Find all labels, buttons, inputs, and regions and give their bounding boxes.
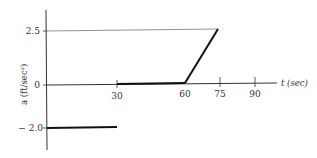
y-tick-label-0: 0 [34,80,40,90]
x-tick-label-60: 60 [179,89,191,99]
x-tick-label-30: 30 [111,91,123,101]
series-segment-neg-2 [47,127,117,128]
x-tick-label-75: 75 [214,89,226,99]
series-segment-ramp [185,29,218,83]
series-segment-zero [117,83,185,84]
x-axis-label: t (sec) [281,78,308,88]
y-tick-label-neg-2: − 2.0 [18,123,43,133]
x-tick-label-90: 90 [249,89,261,99]
reference-line-2-5 [46,29,218,31]
y-axis-label: a (ft/sec²) [19,64,29,105]
acceleration-time-chart: 2.5 0 − 2.0 30 60 75 90 t (sec) a (ft/se… [0,0,317,158]
y-tick-label-2-5: 2.5 [26,26,41,36]
